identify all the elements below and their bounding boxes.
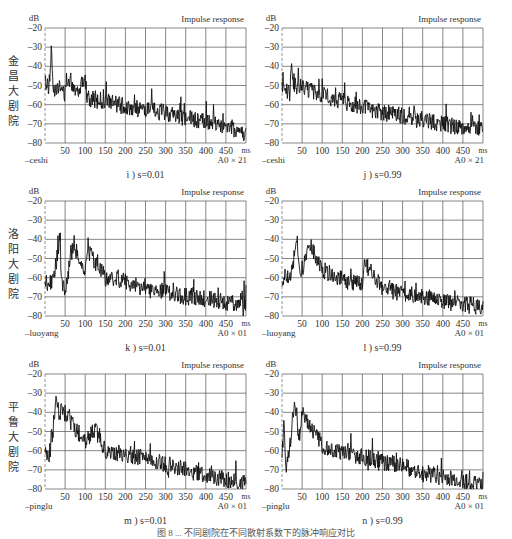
x-tick-label: 350 xyxy=(416,492,431,502)
y-tick-label: –80 xyxy=(264,484,280,494)
y-tick-label: –40 xyxy=(264,407,280,417)
venue-tag: –pinglu xyxy=(261,501,290,511)
chart-title: Impulse response xyxy=(418,360,481,370)
y-tick-label: –20 xyxy=(264,369,280,379)
x-tick-label: 150 xyxy=(335,492,350,502)
y-tick-label: –70 xyxy=(264,465,280,475)
x-tick-label: 100 xyxy=(315,492,330,502)
scale-label: A0 × 01 xyxy=(454,501,484,511)
y-tick-label: –50 xyxy=(264,427,280,437)
figure-caption: 图 8 ... 不同剧院在不同散射系数下的脉冲响应对比 xyxy=(0,526,512,539)
x-tick-label: 400 xyxy=(436,492,451,502)
y-tick-label: –30 xyxy=(264,388,280,398)
x-tick-label: 200 xyxy=(355,492,370,502)
y-tick-label: –60 xyxy=(264,446,280,456)
y-unit-label: dB xyxy=(266,359,277,369)
x-unit-label: ms xyxy=(479,492,488,501)
x-tick-label: 250 xyxy=(375,492,390,502)
x-tick-label: 50 xyxy=(297,492,307,502)
x-tick-label: 300 xyxy=(395,492,410,502)
